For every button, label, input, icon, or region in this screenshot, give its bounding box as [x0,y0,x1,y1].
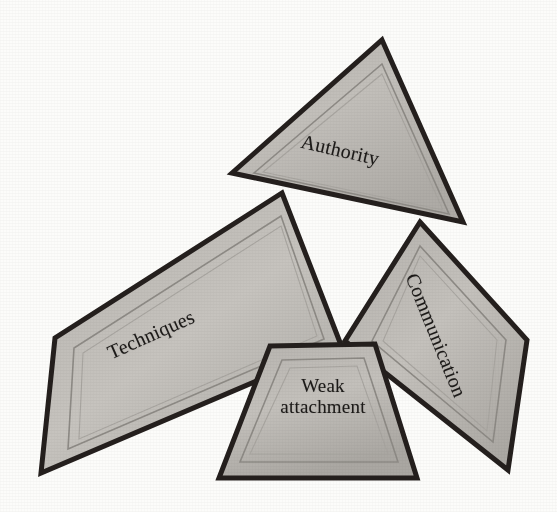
shapes-layer [0,0,557,512]
weak-attachment-label-line-1: Weak [260,375,386,396]
diagram-canvas: Authority Techniques Communication Weak … [0,0,557,512]
weak-attachment-label-line-2: attachment [260,396,386,417]
shape-authority[interactable] [232,40,463,222]
authority-outline[interactable] [232,40,463,222]
shape-label-weak-attachment: Weak attachment [260,375,386,418]
